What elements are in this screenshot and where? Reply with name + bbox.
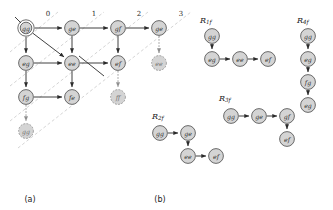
caption-b: (b) [154,195,165,204]
diagonal-labels: 0123 [46,10,183,18]
diagonal-index-label-3: 3 [179,10,183,18]
state-node-a-ee-label: ee [68,60,76,67]
run-R1f: ggegeeefR1f [199,16,275,67]
diagonal-index-label-0: 0 [46,10,50,18]
state-node-a-ge-0-label: ge [68,25,76,33]
state-node-a-ge-1-label: ge [155,25,163,33]
state-node-a-gg-ghost-label: gg [22,128,30,136]
diagonal-index-label-1: 1 [92,10,96,18]
state-node-b4-eg2-label: eg [304,102,312,110]
panel-a-edges [15,17,159,121]
state-node-b1-eg-label: eg [208,56,216,64]
run-R2f: gggeeeefR2f [151,112,223,164]
state-node-b3-ge-label: ge [255,113,263,121]
state-node-a-fe-label: fe [68,94,75,102]
state-node-a-gg-label: gg [22,25,30,33]
figure-captions: (a)(b) [24,195,165,204]
run-R3f: gggegfefR3f [218,94,294,147]
state-node-a-ee-ghost-label: ee [155,60,163,67]
state-node-b3-gg-label: gg [227,113,235,121]
diagonal-index-label-2: 2 [137,10,141,18]
state-node-b4-eg-label: eg [304,56,312,64]
caption-a: (a) [24,195,35,204]
run-R3f-label: R3f [218,94,232,105]
run-R2f-label: R2f [151,112,165,123]
state-node-b1-ee-label: ee [236,56,244,63]
state-node-b2-ee-label: ee [184,153,192,160]
panel-a-nodes: gggegfgeegeeefeefgfeffgg [18,20,167,139]
run-R1f-label: R1f [199,16,213,27]
state-node-b4-gg-label: gg [304,33,312,41]
state-node-b2-ge-label: ge [184,130,192,138]
diagonal-guide-0 [10,12,58,52]
automaton-figure: gggegfgeegeeefeefgfeffgg 0123 ggegeeefR1… [0,0,333,210]
figure-container: gggegfgeegeeefeefgfeffgg 0123 ggegeeefR1… [0,0,333,210]
panel-a-cross-edge [79,56,104,76]
panel-b-runs: ggegeeefR1fggegfgegR4fgggegfefR3fgggeeee… [151,16,315,164]
state-node-b2-gg-label: gg [156,130,164,138]
state-node-a-eg-label: eg [22,60,30,68]
state-node-a-fg-label: fg [22,94,29,102]
run-R4f: ggegfgegR4f [296,16,315,113]
state-node-b4-fg-label: fg [304,79,311,87]
state-node-b1-gg-label: gg [208,33,216,41]
run-R4f-label: R4f [296,16,310,27]
panel-a-edge-a-gg-to-a-ee [33,33,64,57]
